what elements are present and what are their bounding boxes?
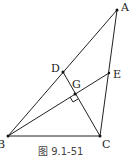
label-d: D [51,62,60,75]
segment-be [8,73,109,136]
point-b [7,135,10,138]
point-e [108,72,110,74]
figure-caption: 图 9.1-51 [38,146,83,157]
right-angle-mark [70,97,78,102]
point-g [74,93,77,96]
label-e: E [113,68,121,81]
label-c: C [102,138,110,151]
geometry-diagram: A B C D E G 图 9.1-51 [0,0,131,157]
point-a [116,9,119,12]
label-b: B [0,138,5,151]
label-a: A [120,1,130,14]
label-g: G [72,78,81,91]
point-d [62,71,65,74]
